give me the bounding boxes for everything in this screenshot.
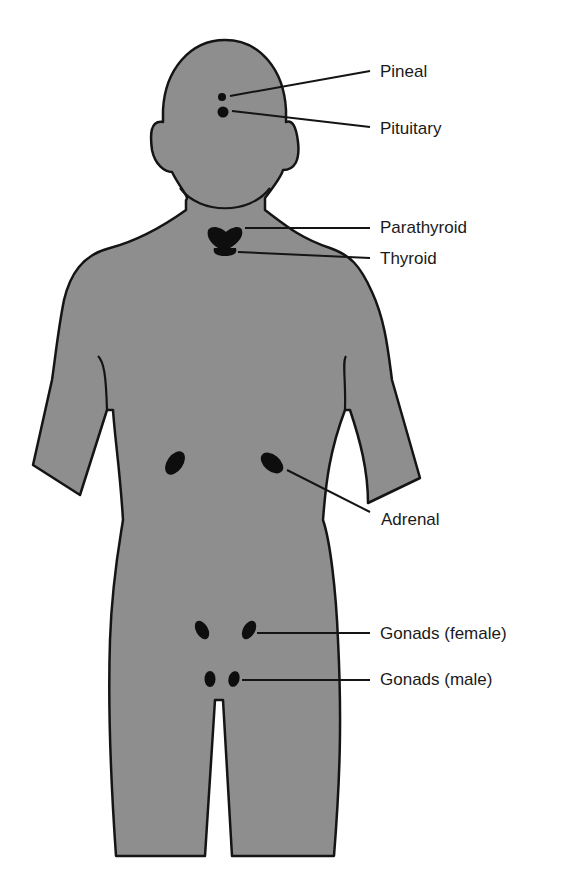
label-gonads-male: Gonads (male) (380, 671, 492, 688)
body-silhouette (33, 40, 420, 856)
pituitary-gland (218, 107, 229, 118)
label-parathyroid: Parathyroid (380, 219, 467, 236)
label-thyroid: Thyroid (380, 250, 437, 267)
label-pineal: Pineal (380, 63, 427, 80)
testis-left (205, 671, 216, 687)
pineal-gland (218, 93, 226, 101)
label-gonads-female: Gonads (female) (380, 625, 507, 642)
body-figure (0, 0, 574, 880)
label-adrenal: Adrenal (381, 511, 440, 528)
endocrine-diagram: Pineal Pituitary Parathyroid Thyroid Adr… (0, 0, 574, 880)
label-pituitary: Pituitary (380, 120, 441, 137)
